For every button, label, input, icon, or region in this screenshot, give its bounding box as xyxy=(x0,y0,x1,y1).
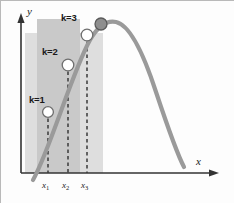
tick-label-x3: x3 xyxy=(81,181,88,190)
marker-maximum xyxy=(95,18,107,30)
marker-k1 xyxy=(43,107,54,118)
y-axis xyxy=(17,13,24,173)
tick-label-x2: x2 xyxy=(62,181,69,190)
point-label-k3: k=3 xyxy=(61,13,77,23)
figure-container: k=1 k=2 k=3 y x x1 x2 x3 xyxy=(0,0,234,203)
point-label-k2: k=2 xyxy=(42,47,58,57)
marker-points xyxy=(43,18,107,117)
point-label-k1: k=1 xyxy=(29,95,45,105)
marker-k3 xyxy=(81,29,93,41)
tick-label-x1: x1 xyxy=(42,181,49,190)
x-axis-label: x xyxy=(196,156,201,167)
marker-k2 xyxy=(62,59,74,71)
y-axis-label: y xyxy=(27,6,32,17)
x-axis xyxy=(21,169,219,176)
